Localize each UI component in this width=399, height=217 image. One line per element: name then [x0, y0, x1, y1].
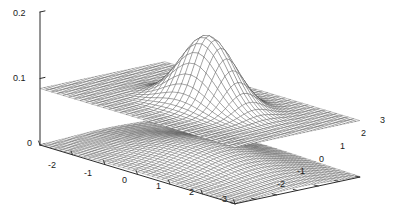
y-tick-label-3: 1	[340, 142, 345, 151]
z-tick-label-0: 0.2	[13, 9, 26, 18]
surface-plot-figure: 0.20.10-2-10123-2-10123	[0, 0, 399, 217]
y-tick-label-1: -1	[297, 167, 305, 176]
y-tick-label-0: -2	[277, 180, 285, 189]
y-tick-label-5: 3	[380, 116, 385, 125]
x-tick-label-1: -1	[84, 169, 92, 178]
y-tick-label-4: 2	[361, 129, 366, 138]
surface-plot-canvas	[0, 0, 399, 217]
x-tick-label-4: 2	[189, 188, 194, 197]
x-tick-label-5: 3	[222, 195, 227, 204]
y-tick-label-2: 0	[319, 155, 324, 164]
axis-lines	[40, 11, 45, 145]
z-tick-label-2: 0	[27, 139, 32, 148]
z-tick-label-1: 0.1	[13, 74, 26, 83]
x-tick-label-3: 1	[156, 182, 161, 191]
upper-plane-mesh	[40, 35, 360, 147]
x-tick-label-2: 0	[122, 176, 127, 185]
x-tick-label-0: -2	[48, 161, 56, 170]
